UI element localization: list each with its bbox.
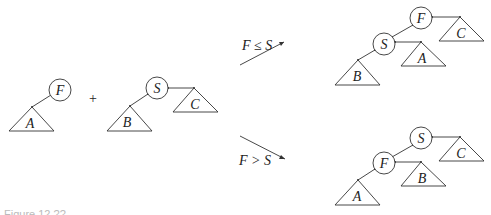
- left-tree: A F: [9, 79, 71, 131]
- diagram-canvas: A F + B C S F ≤ S F > S C A B: [0, 0, 491, 215]
- edge-F-A: [358, 169, 375, 180]
- branch-gt: F > S: [238, 136, 285, 168]
- label-F: F: [379, 156, 389, 171]
- edge-S-F: [392, 145, 413, 157]
- label-B: B: [123, 115, 132, 130]
- label-S: S: [381, 37, 388, 52]
- label-A: A: [352, 189, 362, 204]
- result-tree-gt: C B A S F: [335, 127, 484, 205]
- condition-gt: F > S: [238, 153, 271, 168]
- edge-S-B: [358, 50, 375, 60]
- edge-S-B: [130, 94, 148, 106]
- edge-F-A: [32, 95, 51, 107]
- label-A: A: [25, 116, 35, 131]
- condition-le: F ≤ S: [241, 38, 272, 53]
- label-C: C: [456, 26, 466, 41]
- label-B: B: [353, 69, 362, 84]
- figure-caption: Figure 12.??: [4, 208, 66, 215]
- label-B: B: [418, 171, 427, 186]
- arrowhead-gt-icon: [279, 155, 285, 159]
- label-S: S: [154, 81, 161, 96]
- label-A: A: [417, 51, 427, 66]
- label-S: S: [418, 131, 425, 146]
- middle-tree: B C S: [107, 77, 218, 131]
- result-tree-le: C A B F S: [335, 7, 484, 85]
- label-C: C: [190, 97, 200, 112]
- branch-le: F ≤ S: [240, 38, 284, 65]
- label-F: F: [55, 83, 65, 98]
- label-C: C: [456, 146, 466, 161]
- label-F: F: [416, 11, 426, 26]
- edge-F-S: [392, 25, 413, 37]
- plus-operator: +: [89, 91, 97, 106]
